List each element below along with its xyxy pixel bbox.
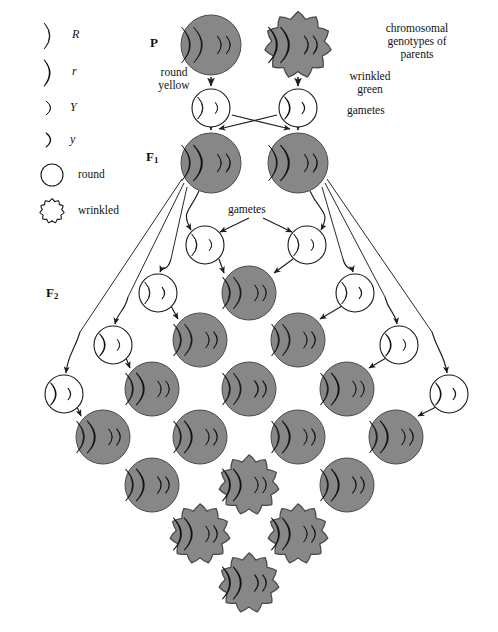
arrow-gametes-label-right — [263, 218, 292, 232]
wrinkled-cell-outline — [265, 12, 331, 78]
arrow-to-gamete-l2 — [115, 297, 128, 324]
arrow-gc-right-to-f2 — [274, 259, 293, 273]
f2-cell-r1-c2 — [173, 410, 227, 464]
legend-label-r: r — [72, 65, 77, 78]
figure-canvas: P roundyellow chromosomalgenotypes ofpar… — [0, 0, 498, 632]
arrow-f1l-to-gamete-cl — [186, 191, 199, 230]
p-gamete-right — [279, 89, 317, 127]
label-f1-generation: F1 — [146, 150, 158, 165]
round-cell-outline — [380, 326, 418, 364]
arrow-gamete-l3-to-f2 — [77, 407, 81, 416]
arrow-f1r-to-gamete-cr — [310, 191, 325, 230]
f2-cell-r2-c3 — [170, 504, 230, 563]
arrow-to-gamete-r1 — [343, 259, 353, 272]
arrow-to-gamete-l3 — [66, 332, 80, 373]
f1-gamete-left-1 — [139, 274, 177, 312]
arrow-to-gamete-r2 — [385, 297, 397, 324]
wrinkled-cell-outline — [268, 504, 328, 563]
wrinkled-cell-outline — [170, 504, 230, 563]
arrow-gametes-label-left — [220, 218, 249, 232]
legend-wrinkled-shape — [40, 199, 64, 223]
f2-cell-r3-c1 — [320, 458, 374, 512]
cell-layer — [45, 12, 468, 612]
f1-gamete-left-3 — [45, 375, 83, 413]
label-wrinkled-green: wrinkledgreen — [335, 70, 405, 96]
round-cell-outline — [139, 274, 177, 312]
f1-gamete-center-right — [288, 226, 326, 264]
label-chromosomal-genotypes: chromosomalgenotypes ofparents — [352, 22, 482, 61]
arrow-to-gamete-l1 — [160, 259, 171, 272]
arrow-gamete-l1-to-f2 — [171, 306, 178, 319]
legend-symbol-round — [41, 164, 63, 186]
legend-round-shape — [41, 164, 63, 186]
label-gametes-f1: gametes — [228, 203, 266, 216]
legend-rod-y — [46, 133, 51, 147]
f1-gamete-right-2 — [380, 326, 418, 364]
f2-cell-r1-c3 — [125, 458, 179, 512]
arrow-gamete-l2-to-f2 — [126, 358, 130, 368]
legend-symbol-R — [44, 23, 50, 49]
arrow-to-gamete-r3 — [432, 332, 447, 373]
genetics-diagram-svg — [0, 0, 498, 632]
round-cell-outline — [186, 226, 224, 264]
f1-cell-left — [181, 133, 241, 193]
legend-rod-Y — [46, 101, 51, 115]
f2-cell-r0-c2 — [125, 362, 179, 416]
f2-cell-r3-c3 — [219, 553, 279, 612]
arrow-gamete-r3-to-f2 — [418, 407, 436, 416]
legend-symbol-wrinkled — [40, 199, 64, 223]
f2-cell-r1-c1 — [222, 362, 276, 416]
arrow-gamete-r2-to-f2 — [369, 358, 386, 368]
legend-symbol-y — [46, 133, 51, 147]
f1-gamete-center-left — [186, 226, 224, 264]
p-gamete-left — [192, 89, 230, 127]
legend-rod-R — [44, 23, 50, 49]
arrow-gamete-r1-to-f2 — [320, 306, 342, 319]
legend-rod-r — [44, 60, 50, 86]
arrow-gc-left-to-f2 — [219, 259, 224, 273]
round-cell-outline — [288, 226, 326, 264]
f2-cell-r1-c0 — [271, 313, 325, 367]
legend-label-R: R — [72, 28, 79, 41]
fan-line-r3 — [327, 179, 432, 332]
label-p-generation: P — [150, 36, 158, 51]
f1-gamete-left-2 — [94, 326, 132, 364]
round-cell-outline — [45, 375, 83, 413]
fan-line-l1 — [171, 187, 187, 259]
f2-cell-r0-c1 — [173, 313, 227, 367]
f1-gamete-right-1 — [336, 274, 374, 312]
wrinkled-cell-outline — [219, 455, 279, 514]
label-gametes-p: gametes — [347, 104, 385, 117]
f2-cell-r0-c0 — [222, 266, 276, 320]
f2-cell-r2-c2 — [219, 455, 279, 514]
f1-cell-right — [268, 133, 328, 193]
label-f2-generation: F2 — [46, 286, 58, 301]
legend-symbol-r — [44, 60, 50, 86]
legend-symbol-Y — [46, 101, 51, 115]
label-round-yellow: roundyellow — [143, 66, 205, 92]
legend-layer — [40, 23, 64, 223]
round-cell-outline — [336, 274, 374, 312]
round-cell-outline — [192, 89, 230, 127]
f2-cell-r2-c1 — [271, 410, 325, 464]
legend-label-y: y — [70, 133, 75, 146]
round-cell-outline — [279, 89, 317, 127]
f2-cell-r2-c0 — [320, 362, 374, 416]
f2-cell-r0-c3 — [76, 410, 130, 464]
round-cell-outline — [94, 326, 132, 364]
legend-label-wrinkled: wrinkled — [78, 204, 119, 217]
wrinkled-cell-outline — [219, 553, 279, 612]
f2-cell-r3-c0 — [369, 410, 423, 464]
legend-label-round: round — [78, 168, 105, 181]
f2-cell-r3-c2 — [268, 504, 328, 563]
legend-label-Y: Y — [70, 101, 77, 114]
p-parent-wrinkled-green — [265, 12, 331, 78]
round-cell-outline — [430, 375, 468, 413]
f1-gamete-right-3 — [430, 375, 468, 413]
